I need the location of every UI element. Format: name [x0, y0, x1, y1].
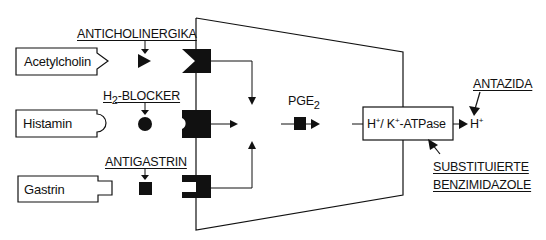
acetylcholin-label: Acetylcholin — [24, 55, 91, 69]
anticholinergika-blocker-triangle — [138, 54, 151, 68]
benzimidazole-label-line2: BENZIMIDAZOLE — [433, 178, 531, 192]
muscarinic-receptor — [182, 49, 211, 73]
gastrin-receptor — [182, 175, 211, 198]
h2-receptor — [182, 110, 211, 138]
h2-blocker-circle — [138, 117, 152, 131]
histamin-label: Histamin — [23, 117, 72, 131]
ach-signal-line — [211, 61, 252, 103]
gastrin-label: Gastrin — [24, 183, 65, 197]
benzimidazole-label-line1: SUBSTITUIERTE — [433, 160, 529, 174]
antigastrin-label: ANTIGASTRIN — [105, 155, 187, 169]
h-plus-output: H+ — [470, 117, 483, 131]
pge2-square — [294, 117, 306, 130]
antazida-label: ANTAZIDA — [473, 77, 532, 91]
h2-blocker-label: H2-BLOCKER — [103, 89, 180, 103]
gas-signal-line — [211, 143, 252, 188]
antigastrin-blocker-square — [139, 182, 152, 195]
atpase-label: H+/ K+-ATPase — [367, 117, 446, 131]
pge2-label: PGE2 — [288, 94, 320, 108]
anticholinergika-label: ANTICHOLINERGIKA — [77, 27, 197, 41]
